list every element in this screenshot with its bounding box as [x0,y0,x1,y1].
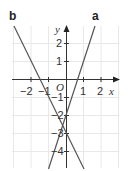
y-tick-label: 2 [56,37,62,49]
x-tick-label: 1 [80,85,86,97]
x-tick-label: −1 [38,85,51,97]
x-axis-label: x [108,85,114,97]
line-b-label: b [9,9,16,23]
y-tick-label: −2 [51,109,64,121]
y-axis-arrow-icon [64,25,70,32]
line-a-label: a [92,9,99,23]
origin-label: O [56,81,64,93]
graph: −2 −1 1 2 x 2 1 −1 −2 −3 −4 y O b a [0,0,129,171]
y-tick-label: 1 [56,55,62,67]
x-tick-label: 2 [97,85,103,97]
y-tick-label: −3 [51,127,64,139]
axes [12,29,116,168]
y-axis-label: y [54,23,60,35]
x-tick-label: −2 [20,85,33,97]
y-tick-label: −4 [51,145,64,157]
